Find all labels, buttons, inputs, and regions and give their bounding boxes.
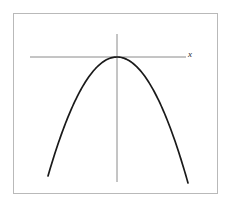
parabola-curve [48, 57, 188, 183]
figure-root: x [0, 0, 231, 211]
parabola-plot-canvas [0, 0, 231, 211]
curve-group [48, 57, 188, 183]
x-axis-label: x [188, 50, 192, 59]
